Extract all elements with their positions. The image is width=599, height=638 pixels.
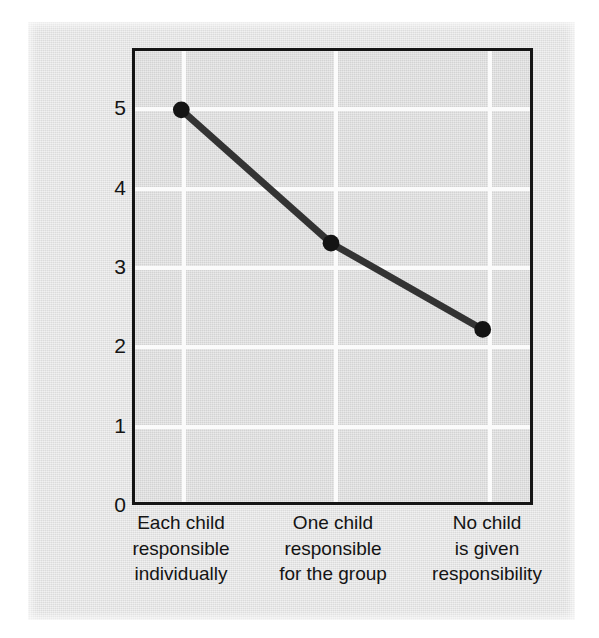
x-tick-2-line-2: is given bbox=[401, 536, 573, 562]
x-axis-tick-labels: Each child responsible individually One … bbox=[132, 510, 533, 606]
y-axis-tick-labels: 0 1 2 3 4 5 bbox=[96, 48, 126, 505]
plot-area bbox=[132, 48, 533, 505]
x-tick-label-one-child: One child responsible for the group bbox=[247, 510, 419, 587]
y-tick-label-4: 4 bbox=[100, 176, 126, 200]
x-tick-1-line-2: responsible bbox=[247, 536, 419, 562]
y-tick-label-5: 5 bbox=[100, 96, 126, 120]
x-tick-1-line-3: for the group bbox=[247, 561, 419, 587]
data-point-markers bbox=[173, 101, 491, 337]
data-point-marker-1 bbox=[323, 235, 340, 252]
data-point-marker-0 bbox=[173, 101, 190, 118]
x-tick-0-line-3: individually bbox=[95, 561, 267, 587]
y-tick-label-3: 3 bbox=[100, 255, 126, 279]
x-tick-2-line-1: No child bbox=[401, 510, 573, 536]
data-point-marker-2 bbox=[474, 321, 491, 338]
x-tick-2-line-3: responsibility bbox=[401, 561, 573, 587]
x-tick-0-line-2: responsible bbox=[95, 536, 267, 562]
figure: Average Number of Candies Donated for Ho… bbox=[0, 0, 599, 638]
y-tick-label-2: 2 bbox=[100, 334, 126, 358]
y-tick-label-1: 1 bbox=[100, 414, 126, 438]
x-tick-label-each-child: Each child responsible individually bbox=[95, 510, 267, 587]
x-tick-0-line-1: Each child bbox=[95, 510, 267, 536]
data-series-layer bbox=[135, 51, 530, 502]
x-tick-label-no-child: No child is given responsibility bbox=[401, 510, 573, 587]
x-tick-1-line-1: One child bbox=[247, 510, 419, 536]
data-line-series bbox=[181, 110, 482, 330]
